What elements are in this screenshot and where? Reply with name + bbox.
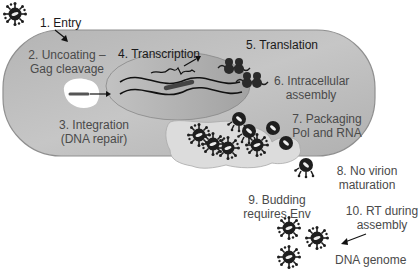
step-10-line2: assembly	[344, 218, 419, 232]
step-2-label: 2. Uncoating – Gag cleavage	[28, 48, 106, 76]
step-4-label: 4. Transcription	[118, 47, 200, 61]
step-5-label: 5. Translation	[246, 38, 318, 52]
step-4-text: 4. Transcription	[118, 47, 200, 61]
step-5-text: 5. Translation	[246, 38, 318, 52]
dna-genome-text: DNA genome	[335, 253, 406, 267]
step-3-line1: 3. Integration	[52, 118, 136, 132]
step-8-label: 8. No virion maturation	[330, 164, 404, 192]
step-7-label: 7. Packaging Pol and RNA	[290, 112, 364, 140]
step-2-line1: 2. Uncoating –	[28, 48, 106, 62]
step-1-label: 1. Entry	[40, 16, 81, 30]
diagram-canvas: 1. Entry 2. Uncoating – Gag cleavage 4. …	[0, 0, 419, 276]
step-10-line1: 10. RT during	[344, 204, 419, 218]
step-8-line2: maturation	[330, 178, 404, 192]
step-2-line2: Gag cleavage	[28, 62, 106, 76]
step-9-line1: 9. Budding	[237, 193, 317, 207]
step-7-line2: Pol and RNA	[290, 126, 364, 140]
step-8-line1: 8. No virion	[330, 164, 404, 178]
step-10-label: 10. RT during assembly	[344, 204, 419, 232]
step-3-line2: (DNA repair)	[52, 132, 136, 146]
step-9-label: 9. Budding requires Env	[237, 193, 317, 221]
step-7-line1: 7. Packaging	[290, 112, 364, 126]
step-6-line2: assembly	[274, 88, 348, 102]
step-6-label: 6. Intracellular assembly	[274, 74, 348, 102]
step-3-label: 3. Integration (DNA repair)	[52, 118, 136, 146]
step-6-line1: 6. Intracellular	[274, 74, 348, 88]
step-9-line2: requires Env	[237, 207, 317, 221]
step-1-text: 1. Entry	[40, 16, 81, 30]
dna-genome-label: DNA genome	[335, 253, 406, 267]
